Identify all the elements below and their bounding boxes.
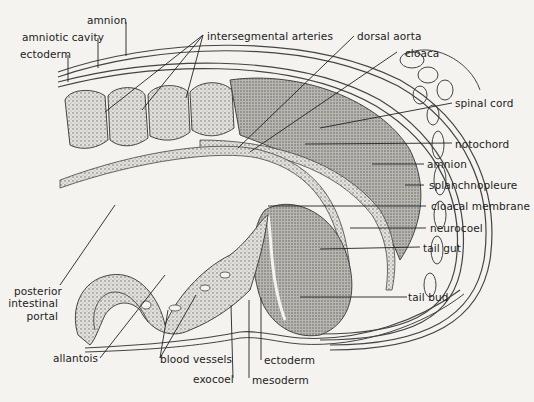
allantois-shape (75, 215, 268, 345)
somites (65, 83, 234, 149)
label-ectoderm-top: ectoderm (20, 48, 71, 60)
label-posterior-intestinal-portal-1: posterior (14, 285, 58, 297)
embryo-diagram: amnion amniotic cavity ectoderm interseg… (0, 0, 534, 402)
label-dorsal-aorta: dorsal aorta (357, 30, 422, 42)
label-posterior-intestinal-portal-3: portal (14, 310, 58, 322)
label-spinal-cord: spinal cord (455, 97, 514, 109)
label-cloacal-membrane: cloacal membrane (431, 200, 530, 212)
label-amnion-top: amnion (87, 14, 127, 26)
label-tail-gut: tail gut (423, 242, 461, 254)
label-ectoderm-bottom: ectoderm (264, 354, 315, 366)
label-allantois: allantois (53, 352, 98, 364)
label-tail-bud: tail bud (408, 291, 449, 303)
label-amnion-right: amnion (427, 158, 467, 170)
label-posterior-intestinal-portal-2: intestinal (8, 297, 58, 309)
label-splanchnopleure: splanchnopleure (429, 179, 517, 191)
label-intersegmental-arteries: intersegmental arteries (207, 30, 333, 42)
label-blood-vessels: blood vessels (160, 353, 232, 365)
label-mesoderm: mesoderm (252, 374, 309, 386)
label-exocoel: exocoel (193, 373, 234, 385)
label-neurocoel: neurocoel (430, 222, 483, 234)
label-amniotic-cavity: amniotic cavity (22, 31, 104, 43)
label-cloaca: cloaca (405, 47, 439, 59)
label-notochord: notochord (455, 138, 509, 150)
